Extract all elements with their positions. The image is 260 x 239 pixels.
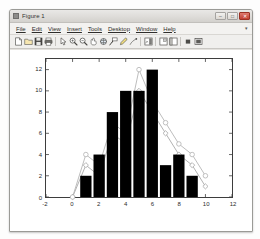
edit-plot-pointer-icon[interactable]	[58, 37, 68, 47]
bar	[80, 176, 91, 197]
menu-item-insert-label: Insert	[67, 26, 82, 32]
matlab-figure-icon	[13, 13, 19, 19]
menu-item-insert[interactable]: Insert	[64, 25, 85, 33]
menu-item-view[interactable]: View	[45, 25, 64, 33]
window-title: Figure 1	[22, 13, 215, 19]
bar	[160, 165, 171, 197]
screenshot-root: Figure 1 – □ ✕ File Edit View Insert Too…	[0, 0, 260, 239]
menu-item-help-label: Help	[163, 26, 175, 32]
menu-item-help[interactable]: Help	[160, 25, 178, 33]
x-tick-label: 4	[119, 201, 133, 207]
menu-item-edit[interactable]: Edit	[29, 25, 45, 33]
window-title-bar[interactable]: Figure 1 – □ ✕	[10, 10, 252, 23]
toolbar-separator	[155, 37, 156, 46]
window-controls: – □ ✕	[215, 12, 250, 20]
new-figure-icon[interactable]	[13, 37, 23, 47]
insert-legend-icon[interactable]	[158, 37, 168, 47]
menu-item-desktop[interactable]: Desktop	[105, 25, 133, 33]
x-tick-label: 8	[172, 201, 186, 207]
data-cursor-icon[interactable]	[108, 37, 118, 47]
x-tick-label: 0	[65, 201, 79, 207]
toolbar-separator	[180, 37, 181, 46]
menu-item-desktop-label: Desktop	[108, 26, 130, 32]
brush-select-icon[interactable]	[118, 37, 128, 47]
bar	[120, 91, 131, 197]
menu-item-tools-label: Tools	[88, 26, 102, 32]
y-tick-label: 10	[26, 87, 42, 93]
dock-figure-icon[interactable]	[193, 37, 203, 47]
maximize-button[interactable]: □	[227, 12, 238, 20]
menu-item-tools[interactable]: Tools	[85, 25, 105, 33]
insert-colorbar-icon[interactable]	[143, 37, 153, 47]
bar	[186, 176, 197, 197]
hide-plot-tools-icon[interactable]	[168, 37, 178, 47]
plot-graphics	[46, 59, 232, 197]
bar	[133, 91, 144, 197]
x-tick-label: 6	[145, 201, 159, 207]
x-tick-label: 12	[226, 201, 240, 207]
figure-canvas[interactable]: 024681012 -2024681012	[10, 49, 252, 231]
figure-window: Figure 1 – □ ✕ File Edit View Insert Too…	[9, 9, 253, 232]
bar	[147, 70, 158, 197]
dock-arrow-icon[interactable]: ▾	[244, 26, 249, 31]
plot-axes[interactable]	[45, 58, 233, 198]
menu-item-edit-label: Edit	[32, 26, 42, 32]
bar	[107, 112, 118, 197]
close-glyph: ✕	[243, 14, 247, 19]
print-figure-icon[interactable]	[43, 37, 53, 47]
save-figure-icon[interactable]	[33, 37, 43, 47]
x-tick-label: 2	[92, 201, 106, 207]
x-tick-label: -2	[38, 201, 52, 207]
bar	[93, 155, 104, 197]
pan-icon[interactable]	[88, 37, 98, 47]
toolbar-separator	[140, 37, 141, 46]
y-tick-label: 6	[26, 130, 42, 136]
y-tick-label: 12	[26, 66, 42, 72]
y-tick-label: 8	[26, 109, 42, 115]
plot-area	[46, 59, 232, 197]
y-tick-label: 4	[26, 152, 42, 158]
menu-item-view-label: View	[48, 26, 61, 32]
zoom-in-icon[interactable]	[68, 37, 78, 47]
menu-item-file[interactable]: File	[13, 25, 29, 33]
close-button[interactable]: ✕	[239, 12, 250, 20]
link-plot-icon[interactable]	[128, 37, 138, 47]
show-plot-tools-icon[interactable]	[183, 37, 193, 47]
open-file-icon[interactable]	[23, 37, 33, 47]
y-tick-label: 2	[26, 173, 42, 179]
rotate-3d-icon[interactable]	[98, 37, 108, 47]
minimize-button[interactable]: –	[215, 12, 226, 20]
menu-item-window[interactable]: Window	[133, 25, 160, 33]
minimize-glyph: –	[219, 14, 222, 19]
bar	[173, 155, 184, 197]
x-tick-label: 10	[199, 201, 213, 207]
menu-item-window-label: Window	[136, 26, 157, 32]
toolbar-separator	[55, 37, 56, 46]
maximize-glyph: □	[231, 14, 234, 19]
tool-bar	[10, 35, 252, 49]
menu-bar: File Edit View Insert Tools Desktop Wind…	[10, 23, 252, 35]
zoom-out-icon[interactable]	[78, 37, 88, 47]
menu-item-file-label: File	[16, 26, 26, 32]
